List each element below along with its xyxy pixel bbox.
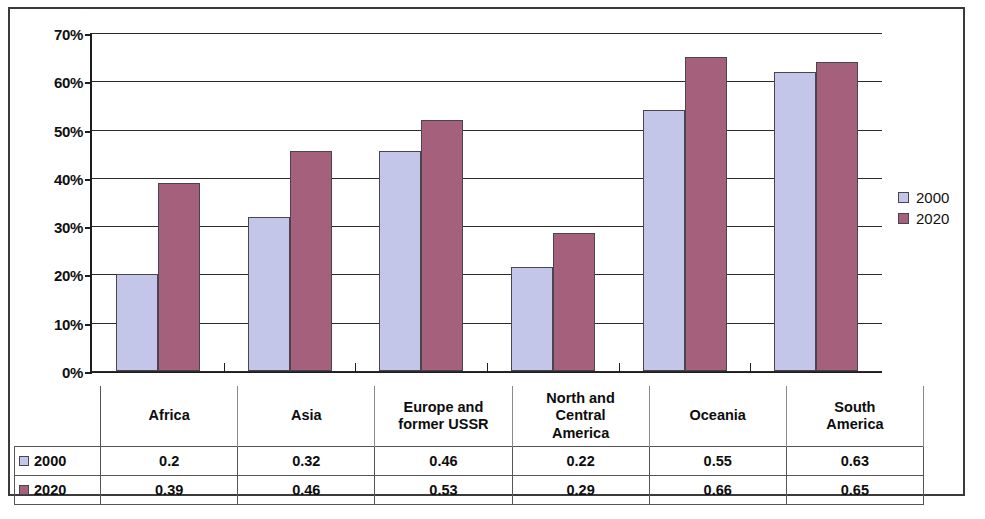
table-cell: 0.53	[375, 476, 512, 505]
table-cell: 0.29	[512, 476, 649, 505]
legend-item-2000: 2000	[898, 187, 968, 208]
table-row-header-2000: 2000	[15, 447, 101, 476]
plot-area: 70%60%50%40%30%20%10%0%	[90, 33, 882, 373]
table-column-header: North andCentralAmerica	[512, 386, 649, 447]
bar-group	[355, 33, 487, 371]
y-axis-tick	[85, 82, 92, 84]
bar-group	[750, 33, 882, 371]
legend-swatch-icon	[19, 456, 29, 466]
bar-group	[92, 33, 224, 371]
bar-group	[224, 33, 356, 371]
y-axis-tick	[85, 179, 92, 181]
bar-2020-oceania	[685, 57, 727, 371]
table-cell: 0.46	[375, 447, 512, 476]
bar-2020-europe-and-former-ussr	[421, 120, 463, 371]
legend-swatch-icon	[898, 192, 909, 203]
y-axis-tick-label: 10%	[54, 315, 83, 332]
table-cell: 0.65	[786, 476, 923, 505]
table-cell: 0.39	[101, 476, 238, 505]
y-axis-tick	[85, 275, 92, 277]
y-axis-tick	[85, 34, 92, 36]
plot-region: 70%60%50%40%30%20%10%0%	[10, 9, 967, 394]
bar-2000-europe-and-former-ussr	[379, 151, 421, 371]
bars-layer	[92, 33, 882, 371]
y-axis-tick-label: 50%	[54, 122, 83, 139]
bar-2020-south-america	[816, 62, 858, 371]
chart-legend: 20002020	[898, 187, 968, 229]
table-row: 20200.390.460.530.290.660.65	[15, 476, 924, 505]
legend-swatch-icon	[898, 213, 909, 224]
bar-2020-africa	[158, 183, 200, 371]
table-cell: 0.55	[649, 447, 786, 476]
y-axis-tick-label: 0%	[62, 364, 83, 381]
bar-2020-north-and-central-america	[553, 233, 595, 371]
table-row: 20000.20.320.460.220.550.63	[15, 447, 924, 476]
y-axis-tick	[85, 324, 92, 326]
y-axis-tick	[85, 372, 92, 374]
y-axis-tick	[85, 227, 92, 229]
legend-label: 2020	[916, 210, 949, 227]
legend-label: 2000	[916, 189, 949, 206]
bar-2000-asia	[248, 217, 290, 372]
bar-group	[619, 33, 751, 371]
table-row-header-2020: 2020	[15, 476, 101, 505]
table-cell: 0.2	[101, 447, 238, 476]
table-corner-cell	[15, 386, 101, 447]
y-axis-tick-label: 30%	[54, 219, 83, 236]
y-axis-tick-label: 70%	[54, 26, 83, 43]
table-row-label: 2000	[34, 453, 66, 469]
bar-2000-north-and-central-america	[511, 267, 553, 371]
y-axis-tick-label: 20%	[54, 267, 83, 284]
table-cell: 0.63	[786, 447, 923, 476]
table-cell: 0.66	[649, 476, 786, 505]
table-cell: 0.22	[512, 447, 649, 476]
table-cell: 0.46	[238, 476, 375, 505]
bar-2000-oceania	[643, 110, 685, 371]
bar-2020-asia	[290, 151, 332, 371]
table-row-label: 2020	[34, 482, 66, 498]
bar-2000-africa	[116, 274, 158, 371]
table-header-row: AfricaAsiaEurope andformer USSRNorth and…	[15, 386, 924, 447]
table-column-header: Africa	[101, 386, 238, 447]
legend-swatch-icon	[19, 485, 29, 495]
table-column-header: Oceania	[649, 386, 786, 447]
legend-item-2020: 2020	[898, 208, 968, 229]
chart-frame: 70%60%50%40%30%20%10%0% 20002020 AfricaA…	[8, 7, 965, 496]
table-cell: 0.32	[238, 447, 375, 476]
table-column-header: Europe andformer USSR	[375, 386, 512, 447]
bar-group	[487, 33, 619, 371]
table-column-header: SouthAmerica	[786, 386, 923, 447]
bar-2000-south-america	[774, 72, 816, 371]
table-column-header: Asia	[238, 386, 375, 447]
y-axis-tick-label: 40%	[54, 170, 83, 187]
y-axis-tick	[85, 131, 92, 133]
data-table: AfricaAsiaEurope andformer USSRNorth and…	[14, 386, 924, 505]
y-axis-tick-label: 60%	[54, 74, 83, 91]
